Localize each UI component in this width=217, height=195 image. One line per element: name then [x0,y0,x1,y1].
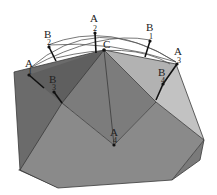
label-B1-sub: 1 [149,32,153,41]
label-A2-sub: 2 [93,24,97,33]
polyhedron-faces [14,50,204,188]
label-C: C [103,38,110,50]
label-B3-sub: 3 [52,83,56,92]
label-B2-sub: 2 [47,38,51,47]
label-A2: A [90,12,98,24]
label-A1-sub: 1 [28,67,32,76]
polyhedron-diagram: A 1 B 2 A 2 C B 1 A 3 B 3 B 4 A 4 [0,0,217,195]
label-A3-sub: 3 [177,56,181,65]
label-B4-sub: 4 [161,76,165,85]
label-A4-sub: 4 [113,136,117,145]
